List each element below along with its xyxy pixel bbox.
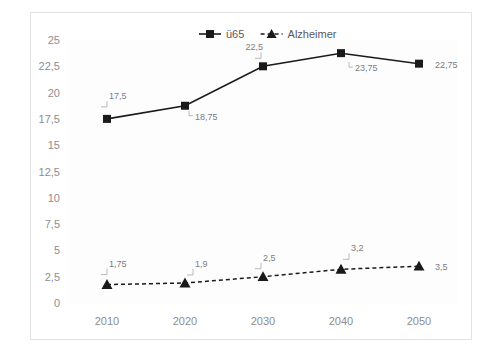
x-tick-label: 2020 [173, 315, 197, 327]
line-chart: 02,557,51012,51517,52022,525 20102020203… [0, 0, 498, 358]
y-tick-label: 0 [54, 297, 60, 309]
data-point-label: 18,75 [195, 112, 218, 122]
y-axis-tick-labels: 02,557,51012,51517,52022,525 [39, 34, 60, 309]
y-tick-label: 25 [48, 34, 60, 46]
x-tick-label: 2050 [407, 315, 431, 327]
chart-legend[interactable]: ü65Alzheimer [199, 28, 337, 40]
y-tick-label: 10 [48, 192, 60, 204]
data-point-label: 3,2 [351, 243, 364, 253]
y-tick-label: 20 [48, 87, 60, 99]
data-point-label: 1,75 [109, 259, 127, 269]
data-point-label: 22,5 [245, 42, 263, 52]
x-tick-label: 2010 [95, 315, 119, 327]
legend-marker-square-icon [206, 30, 214, 38]
data-point-marker[interactable] [259, 62, 267, 70]
data-point-label: 17,5 [109, 91, 127, 101]
y-tick-label: 2,5 [45, 271, 60, 283]
y-tick-label: 15 [48, 139, 60, 151]
data-point-marker[interactable] [181, 102, 189, 110]
data-point-marker[interactable] [103, 115, 111, 123]
data-point-label: 23,75 [355, 63, 378, 73]
x-tick-label: 2030 [251, 315, 275, 327]
y-tick-label: 5 [54, 244, 60, 256]
y-tick-label: 17,5 [39, 113, 60, 125]
data-point-label: 22,75 [435, 60, 458, 70]
data-point-marker[interactable] [337, 49, 345, 57]
x-tick-label: 2040 [329, 315, 353, 327]
chart-container: 02,557,51012,51517,52022,525 20102020203… [0, 0, 498, 358]
data-point-label: 2,5 [263, 253, 276, 263]
legend-item-label[interactable]: ü65 [226, 28, 244, 40]
data-point-label: 1,9 [195, 259, 208, 269]
y-tick-label: 22,5 [39, 60, 60, 72]
y-tick-label: 7,5 [45, 218, 60, 230]
data-point-marker[interactable] [415, 60, 423, 68]
legend-item-label[interactable]: Alzheimer [288, 28, 337, 40]
data-point-label: 3,5 [435, 262, 448, 272]
x-axis-tick-labels: 20102020203020402050 [95, 315, 431, 327]
y-tick-label: 12,5 [39, 166, 60, 178]
